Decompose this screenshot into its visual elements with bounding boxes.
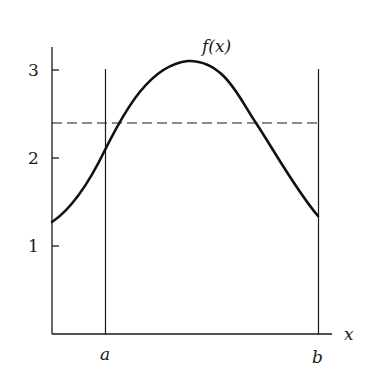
- x-axis-label: x: [344, 324, 354, 344]
- y-tick-label-2: 2: [28, 148, 39, 168]
- f-curve: [52, 61, 318, 222]
- b-label: b: [312, 347, 323, 367]
- chart-svg: 3 2 1 f(x) x a b: [0, 0, 376, 384]
- y-tick-label-1: 1: [28, 236, 39, 256]
- curve-label: f(x): [200, 36, 231, 56]
- chart-figure: 3 2 1 f(x) x a b: [0, 0, 376, 384]
- a-label: a: [100, 344, 110, 364]
- y-tick-label-3: 3: [28, 60, 39, 80]
